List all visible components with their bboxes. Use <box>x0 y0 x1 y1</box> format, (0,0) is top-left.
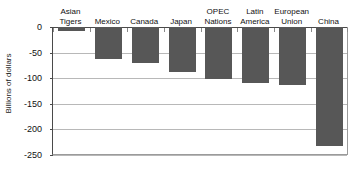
category-label: European Union <box>273 7 310 26</box>
y-axis-tick-label: 0 <box>0 23 42 32</box>
x-axis-tick-mark <box>237 28 238 32</box>
gridline <box>53 104 347 105</box>
x-axis-tick-mark <box>311 28 312 32</box>
y-axis-tick-mark <box>50 104 53 105</box>
category-label: Mexico <box>89 17 126 27</box>
y-axis-tick-label: -250 <box>0 151 42 160</box>
y-axis-tick-mark <box>50 129 53 130</box>
x-axis-tick-mark <box>164 28 165 32</box>
bar <box>95 27 122 59</box>
category-label: Asian Tigers <box>52 7 89 26</box>
category-label: Japan <box>163 17 200 27</box>
bar <box>58 27 85 31</box>
x-axis-tick-mark <box>274 28 275 32</box>
plot-area <box>52 27 348 155</box>
x-axis-tick-mark <box>347 28 348 32</box>
bar <box>169 27 196 72</box>
y-axis-tick-label: -200 <box>0 125 42 134</box>
gridline <box>53 155 347 156</box>
y-axis-tick-mark <box>50 155 53 156</box>
x-axis-tick-mark <box>201 28 202 32</box>
category-label: OPEC Nations <box>200 7 237 26</box>
x-axis-tick-mark <box>90 28 91 32</box>
bar <box>132 27 159 63</box>
x-axis-category-labels: Asian TigersMexicoCanadaJapanOPEC Nation… <box>52 0 348 27</box>
y-axis-tick-label: -100 <box>0 74 42 83</box>
gridline <box>53 129 347 130</box>
y-axis-tick-mark <box>50 53 53 54</box>
x-axis-tick-mark <box>53 28 54 32</box>
bar <box>316 27 343 146</box>
category-label: Latin America <box>236 7 273 26</box>
category-label: China <box>310 17 347 27</box>
y-axis-tick-label: -150 <box>0 100 42 109</box>
y-axis-tick-label: -50 <box>0 49 42 58</box>
y-axis-tick-mark <box>50 78 53 79</box>
bar <box>279 27 306 85</box>
category-label: Canada <box>126 17 163 27</box>
y-axis-tick-labels: 0-50-100-150-200-250 <box>0 27 48 155</box>
x-axis-tick-mark <box>127 28 128 32</box>
bar-chart-figure: Billions of dollars 0-50-100-150-200-250… <box>0 0 351 174</box>
bar <box>242 27 269 83</box>
bar <box>205 27 232 79</box>
